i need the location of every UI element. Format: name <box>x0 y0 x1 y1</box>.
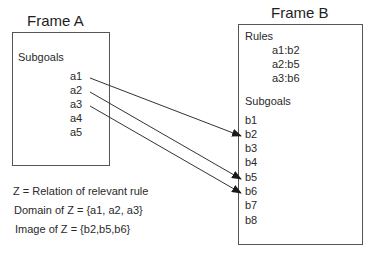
note-domain: Domain of Z = {a1, a2, a3} <box>14 205 143 216</box>
arrow-a2-to-b5 <box>90 92 241 179</box>
note-image: Image of Z = {b2,b5,b6} <box>15 224 130 235</box>
mapping-arrows <box>0 0 372 255</box>
note-relation: Z = Relation of relevant rule <box>13 186 148 197</box>
arrow-a3-to-b6 <box>90 106 241 193</box>
arrow-a1-to-b2 <box>90 78 241 136</box>
